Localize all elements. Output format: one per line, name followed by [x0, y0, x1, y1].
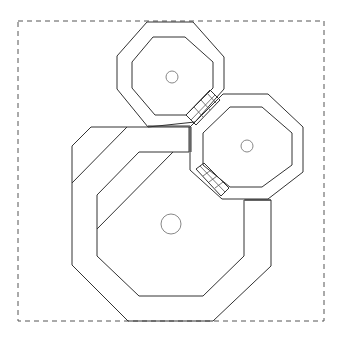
right-octagon-column-icon: [241, 140, 253, 152]
top-octagon-column-icon: [166, 71, 178, 83]
top-octagon-outer-wall: [117, 22, 224, 127]
large-octagon-room: [72, 126, 271, 321]
top-octagon-room: [117, 22, 224, 127]
large-octagon-column-icon: [161, 214, 181, 234]
large-octagon-ramp-inner: [97, 152, 173, 229]
floor-plan-diagram: [0, 0, 337, 341]
large-octagon-ramp-outer: [72, 127, 127, 183]
connector-top-right: [186, 90, 220, 125]
large-octagon-inner-wall: [97, 152, 244, 296]
site-boundary: [18, 21, 324, 321]
right-octagon-room: [190, 94, 303, 199]
right-octagon-outer-wall: [190, 94, 303, 199]
top-octagon-inner-wall: [132, 37, 213, 115]
